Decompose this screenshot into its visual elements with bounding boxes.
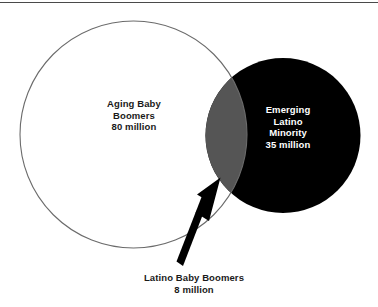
overlap-caption-value: 8 million xyxy=(108,284,280,296)
right-circle-label-line-1: Emerging xyxy=(240,104,336,116)
left-circle-label-value: 80 million xyxy=(66,121,202,133)
right-circle-label-line-3: Minority xyxy=(240,127,336,139)
right-circle-label-value: 35 million xyxy=(240,139,336,151)
callout-arrow-head xyxy=(196,178,221,222)
right-circle-label: Emerging Latino Minority 35 million xyxy=(240,104,336,150)
overlap-caption: Latino Baby Boomers 8 million xyxy=(108,272,280,295)
right-circle-label-line-2: Latino xyxy=(240,116,336,128)
venn-diagram-graphic xyxy=(0,0,378,307)
left-circle-label-line-2: Boomers xyxy=(66,110,202,122)
left-circle-label-line-1: Aging Baby xyxy=(66,98,202,110)
left-circle-label: Aging Baby Boomers 80 million xyxy=(66,98,202,133)
venn-diagram-figure: Aging Baby Boomers 80 million Emerging L… xyxy=(0,0,378,307)
callout-arrow xyxy=(177,178,221,267)
overlap-caption-line-1: Latino Baby Boomers xyxy=(108,272,280,284)
